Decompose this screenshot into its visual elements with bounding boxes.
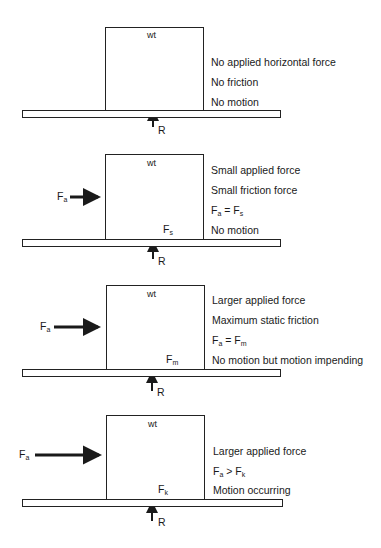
surface <box>22 499 283 507</box>
weight-label: wt <box>148 419 157 429</box>
friction-force-label: Fs <box>163 223 173 236</box>
surface <box>22 369 281 377</box>
surface <box>22 110 281 118</box>
description-line: Larger applied force <box>212 294 305 306</box>
description-line: Maximum static friction <box>212 314 319 326</box>
reaction-label: R <box>158 516 166 528</box>
equation-line: Fa = Fm <box>212 334 247 347</box>
applied-force-label: Fa <box>40 320 50 333</box>
surface <box>22 239 281 247</box>
description-line: No motion <box>211 96 259 108</box>
equation-line: Fa > Fk <box>213 465 245 478</box>
description-line: Small applied force <box>211 164 300 176</box>
description-line: No friction <box>211 76 258 88</box>
reaction-label: R <box>158 255 166 267</box>
description-line: Small friction force <box>211 184 297 196</box>
friction-force-label: Fk <box>158 483 168 496</box>
description-line: No motion but motion impending <box>212 354 363 366</box>
description-line: No motion <box>211 224 259 236</box>
applied-force-label: Fa <box>57 190 67 203</box>
description-line: Larger applied force <box>213 445 306 457</box>
applied-force-label: Fa <box>19 448 29 461</box>
reaction-label: R <box>157 386 165 398</box>
description-line: No applied horizontal force <box>211 56 336 68</box>
description-line: Motion occurring <box>213 484 291 496</box>
weight-label: wt <box>147 158 156 168</box>
weight-label: wt <box>147 289 156 299</box>
friction-force-label: Fm <box>166 353 178 366</box>
reaction-label: R <box>158 124 166 136</box>
weight-label: wt <box>147 30 156 40</box>
equation-line: Fa = Fs <box>211 204 243 217</box>
